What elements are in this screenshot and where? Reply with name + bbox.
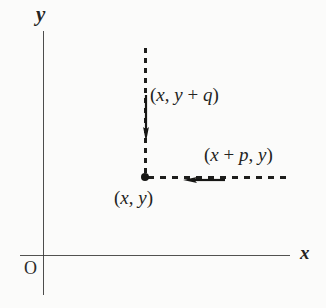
var-y: y <box>174 84 182 105</box>
plus-operator: + <box>183 84 203 105</box>
origin-label: O <box>24 259 36 277</box>
horizontal-translate-label: (x + p, y) <box>204 145 273 164</box>
x-axis-label: x <box>300 243 310 262</box>
point-marker <box>141 173 149 181</box>
var-x: x <box>210 144 218 165</box>
var-x: x <box>120 187 128 208</box>
vertical-vector-arrow <box>143 95 149 147</box>
paren-close: ) <box>266 144 272 165</box>
comma: , <box>248 144 258 165</box>
vertical-translate-label: (x, y + q) <box>150 85 219 104</box>
y-axis-line <box>43 31 44 295</box>
coordinate-diagram: y x O (x, y + q) (x + p, y) (x, y) <box>0 0 326 308</box>
point-coordinate-label: (x, y) <box>114 188 153 207</box>
comma: , <box>129 187 139 208</box>
var-q: q <box>203 84 213 105</box>
var-x: x <box>156 84 164 105</box>
y-axis-label: y <box>36 4 45 25</box>
x-axis-line <box>20 255 290 256</box>
horizontal-vector-arrow <box>183 169 225 187</box>
var-y: y <box>138 187 146 208</box>
plus-operator: + <box>219 144 239 165</box>
paren-close: ) <box>147 187 153 208</box>
paren-close: ) <box>212 84 218 105</box>
comma: , <box>165 84 175 105</box>
